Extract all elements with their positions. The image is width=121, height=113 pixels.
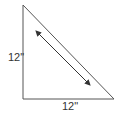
- right-triangle: [23, 5, 114, 99]
- left-side-label: 12": [8, 51, 24, 63]
- hypotenuse-arrow: [36, 31, 90, 85]
- bottom-side-label: 12": [62, 100, 78, 112]
- triangle-diagram: 12" 12": [0, 0, 121, 113]
